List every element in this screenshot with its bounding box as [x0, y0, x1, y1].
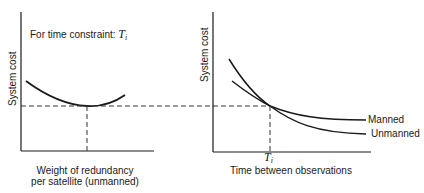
unmanned-curve [229, 59, 366, 134]
left-xlabel-line1: Weight of redundancy [30, 165, 140, 176]
annotation-subscript: i [125, 33, 127, 42]
ti-symbol: T [264, 150, 271, 164]
right-x-axis-label: Time between observations [230, 165, 352, 176]
unmanned-series-label: Unmanned [371, 128, 420, 139]
ti-tick-label: Ti [264, 152, 273, 166]
time-constraint-annotation: For time constraint: Ti [30, 29, 127, 43]
manned-series-label: Manned [368, 114, 404, 125]
left-x-axis-label: Weight of redundancy per satellite (unma… [30, 165, 140, 187]
left-cost-curve [26, 81, 125, 106]
left-y-axis-label: System cost [7, 52, 18, 106]
ti-subscript: i [271, 156, 273, 165]
left-xlabel-line2: per satellite (unmanned) [30, 176, 140, 187]
right-y-axis-label: System cost [199, 28, 210, 82]
manned-curve [232, 81, 366, 120]
annotation-text: For time constraint: [30, 29, 118, 40]
